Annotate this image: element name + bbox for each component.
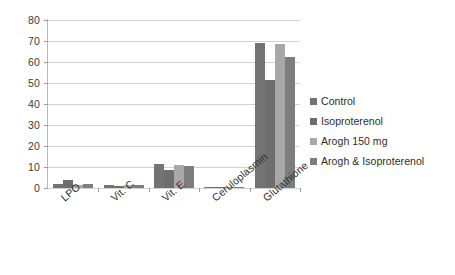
x-tick-mark bbox=[149, 188, 150, 192]
y-tick-label-0: 0 bbox=[14, 183, 40, 194]
bar bbox=[154, 164, 164, 188]
y-tick-label-10: 10 bbox=[14, 162, 40, 173]
legend-item-label: Control bbox=[321, 96, 355, 107]
x-tick-mark bbox=[199, 188, 200, 192]
bar-group bbox=[98, 20, 148, 188]
y-tick-label-30: 30 bbox=[14, 120, 40, 131]
x-tick-mark bbox=[98, 188, 99, 192]
legend-swatch-icon bbox=[310, 118, 317, 125]
legend-item[interactable]: Control bbox=[310, 96, 424, 107]
bar-group bbox=[48, 20, 98, 188]
y-tick-label-20: 20 bbox=[14, 141, 40, 152]
bar bbox=[275, 44, 285, 188]
legend-swatch-icon bbox=[310, 158, 317, 165]
y-tick-label-40: 40 bbox=[14, 99, 40, 110]
legend-item[interactable]: Arogh & Isoproterenol bbox=[310, 156, 424, 167]
bar-group bbox=[149, 20, 199, 188]
x-tick-mark bbox=[250, 188, 251, 192]
legend-item-label: Isoproterenol bbox=[321, 116, 383, 127]
legend-swatch-icon bbox=[310, 98, 317, 105]
legend-item-label: Arogh 150 mg bbox=[321, 136, 388, 147]
bar-chart: 01020304050607080 LPOVit. CVit. ECerulop… bbox=[0, 0, 455, 275]
bar bbox=[104, 185, 114, 188]
y-tick-label-60: 60 bbox=[14, 57, 40, 68]
y-tick-label-70: 70 bbox=[14, 36, 40, 47]
bar bbox=[204, 187, 214, 188]
bar bbox=[83, 184, 93, 188]
y-tick-mark-0 bbox=[44, 188, 48, 189]
bar bbox=[53, 184, 63, 188]
legend-item[interactable]: Arogh 150 mg bbox=[310, 136, 424, 147]
x-tick-mark bbox=[300, 188, 301, 192]
legend-swatch-icon bbox=[310, 138, 317, 145]
chart-legend: ControlIsoproterenolArogh 150 mgArogh & … bbox=[310, 96, 424, 167]
legend-item[interactable]: Isoproterenol bbox=[310, 116, 424, 127]
y-tick-label-80: 80 bbox=[14, 15, 40, 26]
bar-group bbox=[199, 20, 249, 188]
y-tick-label-50: 50 bbox=[14, 78, 40, 89]
bar bbox=[265, 80, 275, 188]
legend-item-label: Arogh & Isoproterenol bbox=[321, 156, 424, 167]
